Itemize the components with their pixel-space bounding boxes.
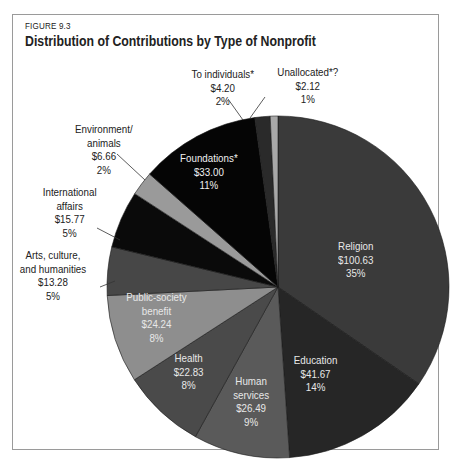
label-religion: Religion$100.6335%: [338, 240, 373, 281]
label-arts: Arts, culture,and humanities$13.285%: [20, 249, 86, 303]
label-to-individuals: To individuals*$4.202%: [192, 68, 254, 109]
label-human-services: Humanservices$26.499%: [233, 375, 269, 429]
label-international: Internationalaffairs$15.775%: [43, 186, 97, 240]
label-foundations: Foundations*$33.0011%: [180, 152, 238, 193]
label-health: Health$22.838%: [174, 352, 204, 393]
label-education: Education$41.6714%: [294, 354, 337, 395]
label-environment: Environment/animals$6.662%: [75, 123, 133, 177]
label-public-society: Public-societybenefit$24.248%: [126, 291, 186, 345]
label-unallocated: Unallocated*?$2.121%: [277, 66, 338, 107]
